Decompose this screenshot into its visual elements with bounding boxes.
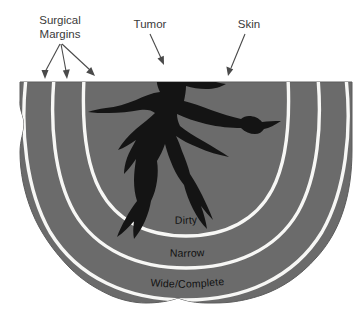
surgical-margins-arrow-1	[42, 44, 61, 79]
tumor-label: Tumor	[134, 18, 167, 30]
surgical-margins-label-line2: Margins	[40, 28, 81, 40]
tumor-arrow	[150, 34, 164, 65]
skin-arrow	[226, 34, 245, 76]
surgical-margins-diagram: Dirty Narrow Wide/Complete Surgical Marg…	[0, 0, 364, 316]
diagram-canvas: Dirty Narrow Wide/Complete Surgical Marg…	[0, 0, 364, 316]
surgical-margins-arrow-2	[61, 44, 70, 79]
callout-skin: Skin	[226, 18, 260, 76]
callout-tumor: Tumor	[134, 18, 167, 65]
margin-label-narrow: Narrow	[170, 246, 206, 259]
skin-label: Skin	[238, 18, 260, 30]
callout-surgical-margins: Surgical Margins	[39, 14, 95, 79]
margin-label-dirty: Dirty	[175, 213, 198, 226]
surgical-margins-label-line1: Surgical	[39, 14, 81, 26]
